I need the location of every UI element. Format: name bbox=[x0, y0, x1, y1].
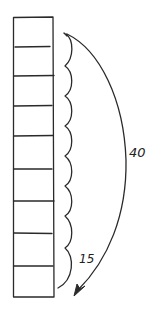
stack-divider bbox=[14, 76, 55, 77]
stack-divider bbox=[14, 233, 52, 234]
stack-divider bbox=[14, 136, 54, 137]
long-arc-arrow bbox=[67, 34, 126, 290]
stack-divider bbox=[14, 106, 52, 107]
stack-outline bbox=[14, 17, 55, 297]
scallop-brace bbox=[58, 34, 72, 288]
scallop-label: 15 bbox=[79, 253, 94, 265]
arrowhead-icon bbox=[74, 284, 85, 296]
stack-divider bbox=[15, 47, 50, 48]
long-arc-label: 40 bbox=[129, 146, 146, 159]
